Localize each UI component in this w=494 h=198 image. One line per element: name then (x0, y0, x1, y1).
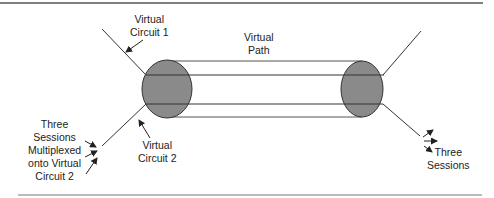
sessions-in-arrows (85, 141, 97, 174)
label-line: Sessions (28, 131, 81, 144)
vc2-callout-arrow (139, 120, 150, 138)
label-line: onto Virtual (28, 157, 81, 170)
vc1-out-line (383, 31, 421, 75)
left-endpoint-ellipse (142, 60, 192, 118)
label-line: Circuit 2 (138, 152, 177, 165)
label-sessions-multiplexed: Three Sessions Multiplexed onto Virtual … (28, 118, 81, 183)
label-virtual-path: Virtual Path (244, 31, 274, 57)
label-line: Path (244, 44, 274, 57)
label-three-sessions-out: Three Sessions (427, 146, 470, 172)
virtual-path-tube (167, 61, 362, 117)
vc2-out-line (383, 104, 420, 136)
label-line: Multiplexed (28, 144, 81, 157)
label-virtual-circuit-2: Virtual Circuit 2 (138, 139, 177, 165)
label-virtual-circuit-1: Virtual Circuit 1 (130, 13, 169, 39)
label-line: Sessions (427, 159, 470, 172)
label-line: Circuit 2 (28, 170, 81, 183)
label-line: Virtual (138, 139, 177, 152)
label-line: Virtual (244, 31, 274, 44)
label-line: Three (427, 146, 470, 159)
right-endpoint-ellipse (341, 61, 383, 117)
label-line: Circuit 1 (130, 26, 169, 39)
vc1-callout-arrow (126, 40, 143, 52)
label-line: Virtual (130, 13, 169, 26)
label-line: Three (28, 118, 81, 131)
